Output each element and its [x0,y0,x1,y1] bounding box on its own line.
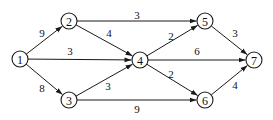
edge-weight-1-2: 9 [39,27,45,39]
edge-weight-4-6: 2 [168,68,174,80]
network-diagram: 938343926234 1234567 [0,0,273,120]
edge-weight-1-4: 3 [67,45,73,57]
edge-5-7 [211,26,247,55]
edge-weight-2-5: 3 [134,9,140,21]
node-7: 7 [246,52,262,68]
node-label: 7 [251,54,257,68]
edge-2-4 [76,25,133,56]
edge-weight-4-5: 2 [168,30,174,42]
edge-6-7 [211,65,247,95]
node-4: 4 [132,52,148,68]
edge-weight-4-7: 6 [194,45,200,57]
edge-weight-5-7: 3 [232,27,238,39]
edge-weight-1-3: 8 [39,82,45,94]
edge-weight-2-4: 4 [106,27,112,39]
edge-weight-3-6: 9 [134,103,140,115]
node-label: 5 [202,15,208,29]
node-label: 6 [202,94,208,108]
node-3: 3 [61,92,77,108]
node-1: 1 [12,51,28,67]
node-2: 2 [61,13,77,29]
node-label: 3 [66,94,72,108]
edge-weight-6-7: 4 [232,79,238,91]
edge-1-4 [28,59,132,60]
node-label: 4 [137,54,143,68]
node-5: 5 [197,13,213,29]
node-label: 1 [17,53,23,67]
node-6: 6 [197,92,213,108]
node-label: 2 [66,15,72,29]
edge-weight-3-4: 3 [105,80,111,92]
